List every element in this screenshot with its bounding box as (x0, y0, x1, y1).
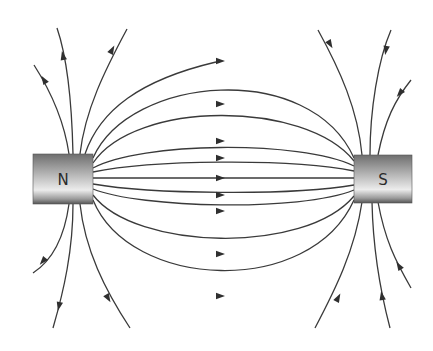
field-line-outer (378, 80, 411, 155)
field-line-outer (80, 204, 130, 328)
arrow-icon (55, 301, 63, 311)
field-line-outer (378, 202, 411, 288)
arrow-icon (394, 260, 404, 271)
arrow-icon (216, 208, 225, 214)
field-line (93, 184, 354, 192)
field-line (93, 195, 354, 238)
north-pole-label: N (57, 171, 68, 189)
field-line (93, 189, 354, 205)
south-pole-label: S (378, 171, 388, 189)
field-line-outer (53, 204, 73, 328)
arrow-icon (216, 155, 225, 161)
field-line-outer (80, 29, 127, 154)
arrow-icon (216, 138, 225, 144)
arrow-icon (216, 175, 225, 181)
arrow-icon (216, 58, 225, 64)
field-line (93, 162, 354, 172)
north-magnet: N (33, 154, 93, 204)
field-line-outer (315, 202, 362, 328)
arrow-icon (216, 293, 225, 299)
arrow-icon (216, 251, 225, 257)
field-line-outer (85, 62, 216, 154)
arrow-icon (325, 39, 335, 50)
field-line-outer (34, 65, 69, 154)
arrow-icon (333, 292, 343, 303)
magnetic-field-diagram: N S (0, 0, 433, 351)
field-line-outer (33, 204, 69, 273)
south-magnet: S (354, 155, 412, 203)
arrow-icon (216, 101, 225, 107)
field-line-outer (372, 202, 390, 328)
field-lines-between-poles (93, 90, 354, 271)
